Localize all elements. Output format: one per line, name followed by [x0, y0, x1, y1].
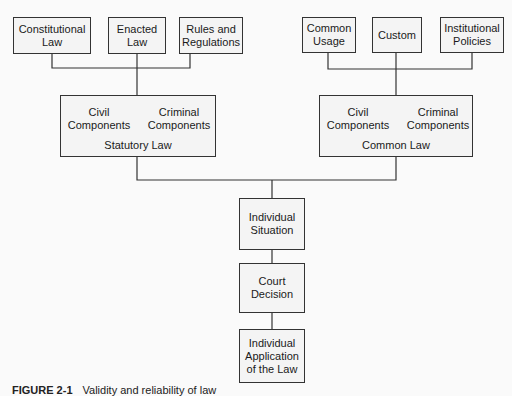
box-label: Institutional — [444, 22, 500, 35]
box-enacted-law: Enacted Law — [108, 17, 166, 54]
common-criminal-components: Criminal Components — [406, 106, 470, 132]
component-label: Components — [147, 119, 211, 132]
box-label: Usage — [313, 35, 345, 48]
figure-number: FIGURE 2-1 — [12, 384, 73, 396]
box-label: Situation — [251, 224, 294, 237]
box-common-law: Civil Components Criminal Components Com… — [319, 95, 473, 157]
component-label: Criminal — [147, 106, 211, 119]
box-rules-and-regulations: Rules and Regulations — [179, 17, 243, 54]
box-individual-application: Individual Application of the Law — [239, 329, 305, 383]
box-label: Rules and — [186, 23, 236, 36]
box-constitutional-law: Constitutional Law — [13, 17, 91, 54]
box-label: Application — [245, 350, 299, 363]
box-custom: Custom — [372, 17, 422, 53]
box-institutional-policies: Institutional Policies — [440, 17, 504, 53]
box-label: Law — [42, 36, 62, 49]
box-court-decision: Court Decision — [239, 263, 305, 313]
box-label: Individual — [249, 211, 295, 224]
box-individual-situation: Individual Situation — [239, 198, 305, 250]
component-label: Components — [67, 119, 131, 132]
figure-caption-text: Validity and reliability of law — [83, 384, 217, 396]
box-label: Regulations — [182, 36, 240, 49]
statutory-criminal-components: Criminal Components — [147, 106, 211, 132]
component-label: Components — [406, 119, 470, 132]
box-common-usage: Common Usage — [302, 17, 356, 53]
box-label: Common — [307, 22, 352, 35]
box-label: Court — [259, 275, 286, 288]
component-label: Criminal — [406, 106, 470, 119]
box-label: Individual — [249, 337, 295, 350]
box-label: Constitutional — [19, 23, 86, 36]
box-label: of the Law — [247, 363, 298, 376]
figure-caption: FIGURE 2-1Validity and reliability of la… — [12, 384, 216, 396]
component-label: Civil — [67, 106, 131, 119]
statutory-civil-components: Civil Components — [67, 106, 131, 132]
box-statutory-law: Civil Components Criminal Components Sta… — [60, 95, 216, 157]
box-label: Policies — [453, 35, 491, 48]
component-label: Civil — [326, 106, 390, 119]
box-label: Custom — [378, 29, 416, 42]
statutory-law-title: Statutory Law — [61, 139, 215, 152]
component-label: Components — [326, 119, 390, 132]
box-label: Decision — [251, 288, 293, 301]
box-label: Law — [127, 36, 147, 49]
common-law-title: Common Law — [320, 139, 472, 152]
box-label: Enacted — [117, 23, 157, 36]
common-civil-components: Civil Components — [326, 106, 390, 132]
